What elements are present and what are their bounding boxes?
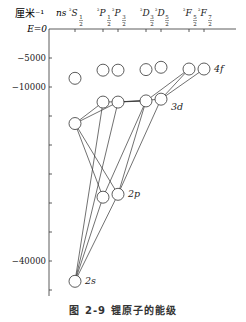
column-header-S12: ²S [69,7,78,18]
svg-text:5: 5 [165,14,169,20]
tick-label: −40000 [12,256,46,266]
y-unit-label: 厘米⁻¹ [15,7,44,19]
svg-text:2: 2 [150,21,154,27]
level-2p12 [97,191,109,203]
svg-text:7: 7 [208,14,212,20]
level-label-2s: 2s [84,275,96,286]
level-label-4f: 4f [213,63,225,74]
level-3p32 [112,96,124,108]
svg-text:3: 3 [150,14,154,20]
svg-text:2: 2 [79,21,83,27]
level-3p12 [97,96,109,108]
row-label: ns [56,8,67,18]
column-header-D52: ²D [155,7,165,18]
svg-text:1: 1 [79,14,83,20]
transition-line [118,99,161,194]
level-label-3d: 3d [171,101,183,112]
column-header-F52: ²F [183,7,192,18]
zero-label: E=0 [26,24,47,34]
level-4p32 [112,64,124,76]
column-header-P32: ²P [112,7,121,18]
level-3d32 [140,95,152,107]
figure-caption: 图 2-9 锂原子的能级 [0,302,246,317]
svg-text:1: 1 [107,14,111,20]
transition-line [75,102,103,281]
level-circles [69,61,210,287]
svg-text:5: 5 [193,14,197,20]
svg-text:2: 2 [107,21,111,27]
transition-line [75,102,118,281]
transition-line [75,102,118,123]
transition-line [103,101,146,197]
svg-text:2: 2 [165,21,169,27]
transition-line [75,197,103,281]
column-header-P12: ²P [97,7,106,18]
level-4f72 [198,63,210,75]
level-4d52 [155,61,167,73]
transition-line [118,101,146,194]
level-4d32 [140,64,152,76]
svg-text:3: 3 [122,14,126,20]
energy-level-diagram: 厘米⁻¹ ns ²S12²P12²P32²D32²D52²F52²F72 E=0… [0,0,246,300]
transition-line [146,69,189,101]
level-3d52 [155,93,167,105]
level-3s [69,118,81,130]
svg-text:2: 2 [208,21,212,27]
level-label-2p: 2p [127,188,140,199]
transition-line [75,124,103,198]
level-4s [69,72,81,84]
column-header-D32: ²D [140,7,150,18]
level-4f52 [183,63,195,75]
transition-line [118,99,161,102]
column-headers: ²S12²P12²P32²D32²D52²F52²F72 [69,7,212,32]
tick-label: −5000 [17,53,46,63]
svg-text:2: 2 [193,21,197,27]
svg-text:2: 2 [122,21,126,27]
transition-lines [75,69,204,281]
column-header-F72: ²F [198,7,207,18]
tick-label: −10000 [12,82,46,92]
level-2s [69,275,81,287]
transition-line [75,124,118,195]
level-4p12 [97,64,109,76]
level-2p32 [112,188,124,200]
